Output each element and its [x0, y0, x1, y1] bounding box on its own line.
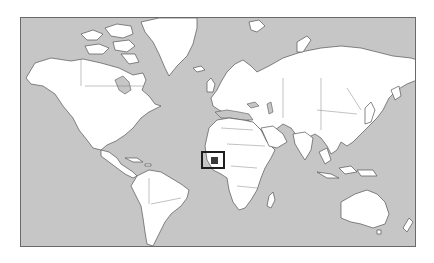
world-map: [20, 17, 416, 247]
australia: [341, 190, 389, 228]
north-america: [26, 58, 161, 150]
world-map-svg: [21, 18, 416, 247]
iceland: [193, 66, 205, 72]
tasmania: [377, 230, 381, 234]
new-zealand: [403, 218, 413, 232]
highlighted-country: [211, 157, 218, 164]
south-america: [131, 170, 189, 246]
novaya-zemlya: [297, 36, 311, 52]
madagascar: [267, 192, 275, 208]
greenland: [141, 18, 197, 76]
caribbean-islands: [125, 158, 151, 166]
highlight-box: [201, 151, 225, 169]
southeast-asia: [317, 148, 377, 178]
arctic-islands: [81, 24, 139, 64]
british-isles: [207, 78, 215, 92]
central-america: [101, 150, 137, 178]
india: [293, 132, 313, 160]
svalbard: [249, 20, 265, 32]
